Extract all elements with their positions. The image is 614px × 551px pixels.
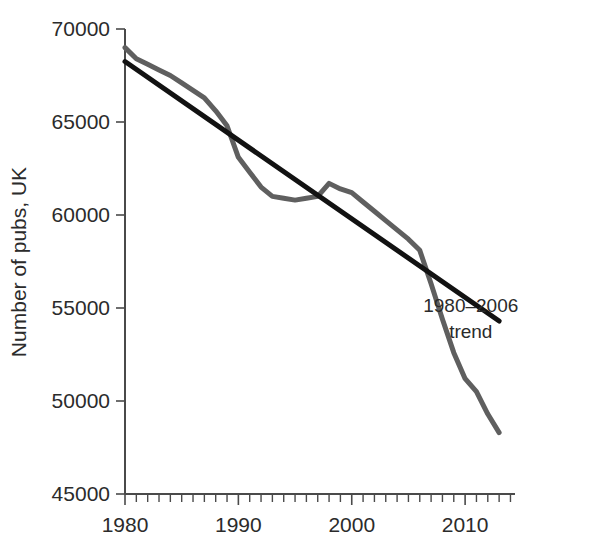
trend-annotation-line2: trend <box>449 321 492 342</box>
axes <box>125 29 515 494</box>
trend-annotation-line1: 1980–2006 <box>423 295 518 316</box>
y-tick-label: 45000 <box>52 482 110 505</box>
series-line-trend <box>125 62 499 321</box>
series-line-pubs <box>125 48 499 433</box>
x-tick-label: 1990 <box>215 513 262 536</box>
axis-titles: Number of pubs, UK <box>7 167 30 357</box>
axis-tick-labels: 4500050000550006000065000700001980199020… <box>52 17 489 536</box>
y-tick-label: 65000 <box>52 110 110 133</box>
chart-annotations: 1980–2006trend <box>423 295 518 342</box>
y-tick-label: 70000 <box>52 17 110 40</box>
x-tick-label: 2010 <box>442 513 489 536</box>
axis-ticks <box>116 29 510 505</box>
y-tick-label: 55000 <box>52 296 110 319</box>
y-axis-title: Number of pubs, UK <box>7 167 30 357</box>
y-tick-label: 50000 <box>52 389 110 412</box>
chart-canvas: 4500050000550006000065000700001980199020… <box>0 0 614 551</box>
x-tick-label: 1980 <box>102 513 149 536</box>
chart-figure: 4500050000550006000065000700001980199020… <box>0 0 614 551</box>
y-tick-label: 60000 <box>52 203 110 226</box>
x-tick-label: 2000 <box>328 513 375 536</box>
data-series <box>125 48 499 433</box>
